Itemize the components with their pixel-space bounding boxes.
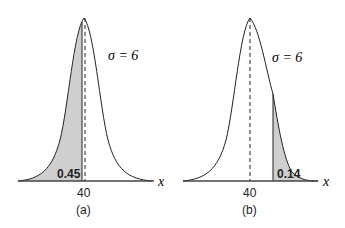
panel-a: 0.45 40 (a) x σ = 6: [18, 18, 165, 217]
area-label-a: 0.45: [57, 167, 81, 181]
shaded-left-tail: [18, 22, 82, 181]
axis-label-a: x: [157, 174, 165, 189]
tick-label-a: 40: [77, 186, 91, 200]
tick-label-b: 40: [243, 186, 257, 200]
area-label-b: 0.14: [277, 167, 301, 181]
caption-a: (a): [76, 203, 91, 217]
caption-b: (b): [242, 203, 257, 217]
panel-b: 0.14 40 (b) x σ = 6: [183, 18, 330, 217]
axis-label-b: x: [322, 174, 330, 189]
sigma-label-b: σ = 6: [272, 50, 302, 65]
sigma-label-a: σ = 6: [108, 48, 138, 63]
normal-distribution-figure: 0.45 40 (a) x σ = 6 0.14 40 (b) x σ = 6: [0, 0, 345, 228]
